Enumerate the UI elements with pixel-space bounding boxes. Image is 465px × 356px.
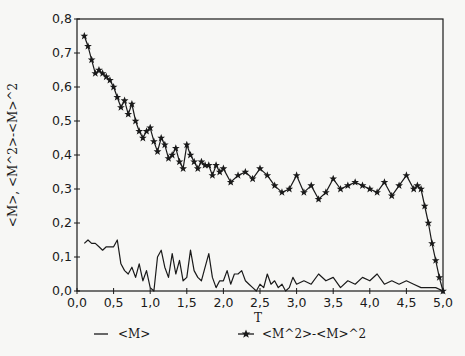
y-tick-label: 0,8 [52,11,72,26]
x-axis-title: T [254,311,262,325]
y-tick-label: 0,1 [52,249,72,264]
legend-label-m: <M> [118,327,150,341]
star-marker-icon [359,182,367,189]
y-tick-label: 0,2 [52,215,72,230]
y-axis-title: <M>, <M^2>-<M>^2 [6,83,20,227]
star-marker-icon [139,134,147,141]
legend-label-variance: <M^2>-<M>^2 [262,327,366,341]
star-marker-icon [187,151,195,158]
y-tick-label: 0,4 [52,147,72,162]
y-tick-label: 0,3 [52,181,72,196]
star-marker-icon [150,137,158,144]
plot-frame [77,19,443,291]
star-marker-icon [113,93,121,100]
y-axis: 0,00,10,20,30,40,50,60,70,8 [52,11,80,298]
series-line [84,240,443,291]
x-tick-label: 2,5 [250,295,270,310]
star-marker-icon [84,42,92,49]
star-marker-icon [80,32,88,39]
y-tick-label: 0,6 [52,79,72,94]
x-tick-label: 3,0 [287,295,307,310]
star-marker-icon [285,185,293,192]
chart: 0,00,10,20,30,40,50,60,70,8 0,00,51,01,5… [0,0,465,356]
x-tick-label: 0,5 [104,295,124,310]
star-marker-icon [124,110,132,117]
star-marker-icon [176,158,184,165]
star-marker-icon [121,97,129,104]
star-marker-icon [293,171,301,178]
x-tick-label: 0,0 [67,295,87,310]
series-variance [80,32,446,294]
x-tick-label: 1,5 [177,295,197,310]
star-marker-icon [117,103,125,110]
star-marker-icon [194,165,202,172]
star-marker-icon [154,148,162,155]
x-tick-label: 2,0 [213,295,233,310]
x-tick-label: 4,0 [360,295,380,310]
star-marker-icon [344,182,352,189]
star-marker-icon [351,178,359,185]
star-marker-icon [179,165,187,172]
star-marker-icon [132,117,140,124]
x-tick-label: 3,5 [323,295,343,310]
legend: <M> <M^2>-<M>^2 [94,327,366,341]
star-marker-icon [329,175,337,182]
star-marker-icon [212,161,220,168]
star-marker-icon [381,178,389,185]
y-tick-label: 0,7 [52,45,72,60]
x-tick-label: 1,0 [140,295,160,310]
star-marker-icon [135,127,143,134]
series-line [84,36,443,291]
star-marker-icon [366,185,374,192]
star-marker-icon [190,158,198,165]
series-mean-magnetization [84,240,443,291]
star-marker-icon [403,171,411,178]
x-tick-label: 5,0 [433,295,453,310]
x-tick-label: 4,5 [396,295,416,310]
star-marker-icon [209,171,217,178]
y-tick-label: 0,5 [52,113,72,128]
star-marker-icon [110,83,118,90]
